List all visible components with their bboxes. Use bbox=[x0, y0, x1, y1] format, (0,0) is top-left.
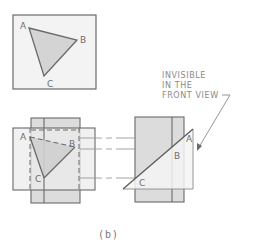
side-label-b: B bbox=[174, 151, 180, 161]
annotation-line-2: IN THE bbox=[162, 81, 192, 90]
annotation-line-1: INVISIBLE bbox=[162, 71, 206, 80]
front-label-c: C bbox=[35, 174, 41, 184]
figure-caption: (b) bbox=[98, 229, 119, 240]
front-view: A B C bbox=[13, 118, 95, 203]
leader-line bbox=[199, 95, 230, 147]
top-view: A B C bbox=[13, 15, 96, 89]
top-label-a: A bbox=[20, 21, 27, 31]
front-label-a: A bbox=[20, 132, 27, 142]
annotation-line-3: FRONT VIEW bbox=[162, 91, 219, 100]
top-label-b: B bbox=[80, 35, 86, 45]
top-label-c: C bbox=[47, 79, 53, 89]
side-label-c: C bbox=[139, 178, 145, 188]
side-view: A B C INVISIBLE IN THE FRONT VIEW bbox=[123, 71, 230, 202]
front-label-b: B bbox=[69, 139, 75, 149]
leader-arrow-icon bbox=[197, 143, 202, 151]
orthographic-projection-diagram: A B C A B C A B bbox=[0, 0, 253, 251]
side-label-a: A bbox=[186, 134, 193, 144]
